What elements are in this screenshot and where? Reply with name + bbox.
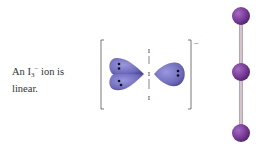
lone-pair-lobe-lower-left: [109, 74, 144, 90]
lewis-structure-diagram: − I I I: [100, 38, 200, 113]
iodine-atom-top: [232, 7, 250, 25]
lone-pair-lobe-upper-left: [109, 58, 144, 75]
left-bracket: [101, 40, 104, 109]
right-bracket: [188, 40, 191, 109]
atom-bottom: I: [148, 94, 151, 102]
atom-center: I: [148, 70, 151, 78]
ball-and-stick-model: [220, 0, 267, 153]
caption-line2: linear.: [12, 83, 38, 94]
caption-suffix: ion is: [38, 66, 64, 77]
iodine-atom-center: [232, 63, 250, 81]
atom-top: I: [148, 47, 151, 55]
charge-label: −: [194, 39, 199, 48]
caption-prefix: An I: [12, 66, 31, 77]
caption: An I3− ion is linear.: [12, 62, 64, 96]
lone-pair-lobe-right: [154, 62, 185, 86]
iodine-atom-bottom: [232, 124, 250, 142]
